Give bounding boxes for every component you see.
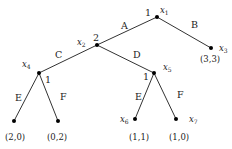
edge-B [157,17,211,48]
action-label-C: C [55,49,62,60]
node-label-x4: x4 [22,59,31,70]
payoff-leaf-1: (2,0) [5,132,25,142]
node-label-x5: x5 [163,62,172,73]
payoff-x3: (3,3) [200,54,220,64]
player-label-x1: 1 [145,7,151,18]
payoff-x7: (1,0) [169,132,189,142]
action-label-B: B [191,19,198,30]
action-label-E-right: E [135,91,142,102]
edge-F-right [154,73,176,119]
leaf-left-1 [12,119,16,123]
player-label-x2: 2 [93,32,99,43]
action-label-A: A [120,20,128,31]
payoff-x6: (1,1) [129,132,149,142]
player-label-x4: 1 [45,74,51,85]
node-x4 [37,71,41,75]
node-x1 [155,15,159,19]
node-x7 [174,117,178,121]
payoff-leaf-2: (0,2) [47,132,67,142]
action-label-F-left: F [60,91,67,102]
leaf-left-2 [56,119,60,123]
node-x5 [152,71,156,75]
node-label-x7: x7 [189,114,198,125]
edge-D [97,45,154,73]
node-label-x3: x3 [219,43,228,54]
action-label-F-right: F [177,89,184,100]
node-x3 [209,46,213,50]
action-label-D: D [133,49,141,60]
node-label-x1: x1 [160,5,169,16]
node-x2 [95,43,99,47]
game-tree: 1 2 1 1 x1 x2 x3 x4 x5 x6 x7 A B C D E F… [0,0,232,149]
node-x6 [133,117,137,121]
player-label-x5: 1 [143,71,149,82]
node-label-x2: x2 [77,37,86,48]
action-label-E-left: E [15,92,22,103]
node-label-x6: x6 [120,114,129,125]
edge-C [39,45,97,73]
